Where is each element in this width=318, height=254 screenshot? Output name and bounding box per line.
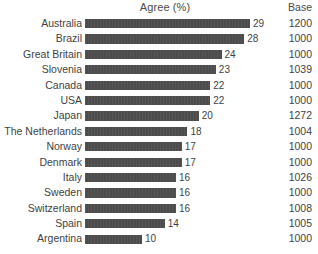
base-value: 1000: [289, 47, 312, 62]
bar: [85, 127, 187, 136]
base-value: 1005: [289, 216, 312, 231]
base-column-header: Base: [288, 1, 312, 13]
category-label: Switzerland: [0, 201, 82, 216]
category-label: Italy: [0, 170, 82, 185]
bar-value-label: 17: [185, 139, 196, 154]
bar: [85, 219, 165, 228]
base-value: 1000: [289, 93, 312, 108]
bar-row: Norway171000: [0, 139, 318, 154]
chart-title: Agree (%): [85, 1, 245, 13]
bar-value-label: 16: [179, 185, 190, 200]
category-label: Slovenia: [0, 62, 82, 77]
bar: [85, 34, 244, 43]
bar-row: Italy161026: [0, 170, 318, 185]
bar: [85, 173, 176, 182]
category-label: USA: [0, 93, 82, 108]
bar-value-label: 14: [168, 216, 179, 231]
bar-row: USA221000: [0, 93, 318, 108]
bar-chart: Agree (%) Base Australia291200Brazil2810…: [0, 0, 318, 254]
bar: [85, 235, 142, 244]
base-value: 1004: [289, 124, 312, 139]
bar-value-label: 22: [213, 78, 224, 93]
bar-track: 14: [85, 216, 255, 231]
category-label: Canada: [0, 78, 82, 93]
bar-row: Switzerland161008: [0, 201, 318, 216]
base-value: 1000: [289, 78, 312, 93]
bar-row: Brazil281000: [0, 31, 318, 46]
bar: [85, 188, 176, 197]
base-value: 1039: [289, 62, 312, 77]
bar-value-label: 22: [213, 93, 224, 108]
bar: [85, 96, 210, 105]
bar-track: 16: [85, 185, 255, 200]
bar-track: 17: [85, 155, 255, 170]
bar-track: 18: [85, 124, 255, 139]
bar-track: 24: [85, 47, 255, 62]
bar-track: 22: [85, 93, 255, 108]
bar-value-label: 29: [253, 16, 264, 31]
bar-track: 29: [85, 16, 255, 31]
category-label: Denmark: [0, 155, 82, 170]
base-value: 1200: [289, 16, 312, 31]
bar: [85, 204, 176, 213]
bar-row: Spain141005: [0, 216, 318, 231]
base-value: 1000: [289, 155, 312, 170]
bar-rows: Australia291200Brazil281000Great Britain…: [0, 16, 318, 247]
bar-row: Japan201272: [0, 108, 318, 123]
bar: [85, 158, 182, 167]
bar-value-label: 16: [179, 170, 190, 185]
base-value: 1008: [289, 201, 312, 216]
bar: [85, 19, 250, 28]
base-value: 1000: [289, 31, 312, 46]
bar-value-label: 16: [179, 201, 190, 216]
bar: [85, 50, 222, 59]
bar-value-label: 18: [190, 124, 201, 139]
bar-row: Denmark171000: [0, 155, 318, 170]
category-label: Argentina: [0, 231, 82, 246]
bar: [85, 81, 210, 90]
base-value: 1000: [289, 185, 312, 200]
base-value: 1000: [289, 231, 312, 246]
bar-row: Australia291200: [0, 16, 318, 31]
bar-value-label: 20: [202, 108, 213, 123]
category-label: Sweden: [0, 185, 82, 200]
bar: [85, 111, 199, 120]
bar-track: 16: [85, 170, 255, 185]
bar-row: Canada221000: [0, 78, 318, 93]
chart-header: Agree (%) Base: [0, 0, 318, 16]
bar-track: 17: [85, 139, 255, 154]
base-value: 1000: [289, 139, 312, 154]
bar-row: The Netherlands181004: [0, 124, 318, 139]
bar-value-label: 24: [225, 47, 236, 62]
bar-row: Slovenia231039: [0, 62, 318, 77]
bar-track: 23: [85, 62, 255, 77]
bar-value-label: 10: [145, 231, 156, 246]
category-label: Australia: [0, 16, 82, 31]
category-label: Great Britain: [0, 47, 82, 62]
category-label: Spain: [0, 216, 82, 231]
bar-track: 20: [85, 108, 255, 123]
bar-row: Great Britain241000: [0, 47, 318, 62]
bar-row: Sweden161000: [0, 185, 318, 200]
base-value: 1272: [289, 108, 312, 123]
bar-value-label: 17: [185, 155, 196, 170]
category-label: The Netherlands: [0, 124, 82, 139]
base-value: 1026: [289, 170, 312, 185]
bar: [85, 65, 216, 74]
bar: [85, 142, 182, 151]
bar-track: 22: [85, 78, 255, 93]
bar-row: Argentina101000: [0, 231, 318, 246]
bar-track: 10: [85, 231, 255, 246]
category-label: Norway: [0, 139, 82, 154]
category-label: Brazil: [0, 31, 82, 46]
bar-track: 28: [85, 31, 255, 46]
category-label: Japan: [0, 108, 82, 123]
bar-value-label: 23: [219, 62, 230, 77]
bar-value-label: 28: [247, 31, 258, 46]
bar-track: 16: [85, 201, 255, 216]
